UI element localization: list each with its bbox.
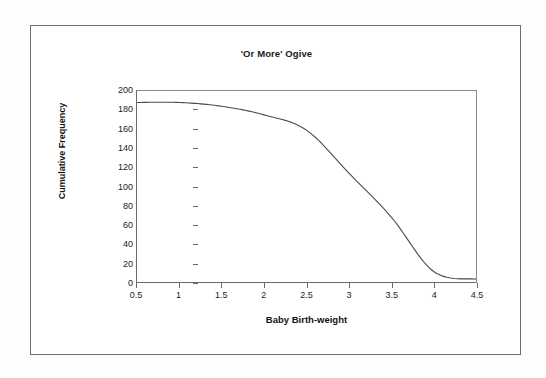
x-tick-mark [307, 283, 308, 288]
x-tick-mark [349, 283, 350, 288]
y-axis-title: Cumulative Frequency [57, 81, 67, 221]
chart-title: 'Or More' Ogive [31, 48, 522, 59]
y-tick-label: 40 [93, 239, 133, 250]
x-tick-label: 2.5 [287, 290, 327, 300]
x-tick-label: 1 [159, 290, 199, 300]
y-tick-mark [193, 283, 198, 284]
x-tick-label: 3.5 [372, 290, 412, 300]
x-tick-label: 0.5 [116, 290, 156, 300]
x-tick-mark [221, 283, 222, 288]
x-tick-mark [136, 283, 137, 288]
ogive-line-svg [137, 91, 476, 282]
y-tick-label: 120 [93, 162, 133, 173]
y-tick-label: 100 [93, 181, 133, 192]
x-tick-mark [477, 283, 478, 288]
x-tick-label: 3 [329, 290, 369, 300]
x-tick-label: 2 [244, 290, 284, 300]
y-tick-label: 60 [93, 220, 133, 231]
y-tick-label: 140 [93, 142, 133, 153]
y-tick-label: 200 [93, 85, 133, 96]
figure-frame: 'Or More' Ogive Cumulative Frequency 020… [30, 25, 521, 355]
x-tick-label: 1.5 [201, 290, 241, 300]
y-axis-tick-group: 020406080100120140160180200 [93, 84, 133, 289]
x-tick-mark [392, 283, 393, 288]
y-tick-label: 20 [93, 258, 133, 269]
y-tick-label: 180 [93, 104, 133, 115]
ogive-curve [137, 102, 476, 279]
x-axis-title: Baby Birth-weight [136, 314, 477, 325]
x-tick-label: 4 [414, 290, 454, 300]
x-tick-label: 4.5 [457, 290, 497, 300]
y-tick-label: 80 [93, 200, 133, 211]
page-canvas: 'Or More' Ogive Cumulative Frequency 020… [0, 0, 546, 378]
x-tick-mark [264, 283, 265, 288]
y-tick-label: 0 [93, 278, 133, 289]
x-tick-mark [434, 283, 435, 288]
plot-area [136, 90, 477, 283]
x-tick-mark [179, 283, 180, 288]
y-tick-label: 160 [93, 123, 133, 134]
